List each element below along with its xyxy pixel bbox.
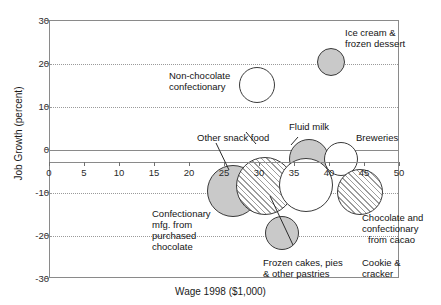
y-tick--20: [45, 235, 49, 236]
y-axis-title: Job Growth (percent): [13, 64, 24, 204]
label-frozen-cakes-line1: Frozen cakes, pies: [263, 257, 343, 268]
label-confectionary-line1: Confectionary: [152, 208, 211, 219]
x-tick-0: [49, 162, 50, 166]
x-axis-labels: 0 5 10 15 20 25 30 35 40 45 50: [0, 168, 441, 182]
bubble-non-chocolate-confectionary[interactable]: [239, 67, 275, 103]
x-tick-35: [294, 162, 295, 166]
gridline-20: [50, 64, 398, 65]
x-tick-label-30: 30: [247, 168, 271, 178]
label-cookie-cracker-line1: Cookie &: [362, 257, 401, 268]
y-tick-10: [45, 106, 49, 107]
x-axis-title: Wage 1998 ($1,000): [0, 286, 441, 297]
x-tick-40: [329, 162, 330, 166]
x-tick-label-20: 20: [177, 168, 201, 178]
label-non-chocolate-line2: confectionary: [169, 81, 226, 92]
label-non-chocolate-line1: Non-chocolate: [169, 70, 230, 81]
gridline-minus20: [50, 236, 398, 237]
label-confectionary-line4: chocolate: [152, 241, 193, 252]
x-tick-label-40: 40: [317, 168, 341, 178]
x-tick-10: [119, 162, 120, 166]
x-tick-25: [224, 162, 225, 166]
x-tick-5: [84, 162, 85, 166]
label-cookie-cracker-line2: cracker: [362, 268, 393, 279]
bubble-chart: 30 20 10 0 -10 -20 -30 0 5 10 15 20: [0, 0, 441, 305]
x-tick-50: [399, 162, 400, 166]
label-other-snack-food: Other snack food: [197, 132, 269, 143]
bubble-ice-cream-frozen-dessert[interactable]: [317, 48, 345, 76]
x-tick-label-15: 15: [142, 168, 166, 178]
x-tick-label-10: 10: [107, 168, 131, 178]
label-chocolate-cacao-line1: Chocolate and: [362, 212, 423, 223]
x-tick-label-50: 50: [387, 168, 411, 178]
x-tick-30: [259, 162, 260, 166]
x-tick-label-25: 25: [212, 168, 236, 178]
label-ice-cream-line1: Ice cream &: [345, 27, 396, 38]
label-ice-cream-line2: frozen dessert: [345, 38, 405, 49]
label-breweries: Breweries: [356, 132, 398, 143]
gridline-10: [50, 107, 398, 108]
label-chocolate-cacao-line3: from cacao: [368, 234, 415, 245]
label-fluid-milk: Fluid milk: [289, 121, 329, 132]
plot-area: [49, 20, 399, 278]
label-confectionary-line2: mfg. from: [152, 219, 192, 230]
y-tick-0: [45, 149, 49, 150]
label-frozen-cakes-line2: & other pastries: [263, 268, 330, 279]
y-tick--10: [45, 192, 49, 193]
x-tick-label-5: 5: [72, 168, 96, 178]
x-tick-label-35: 35: [282, 168, 306, 178]
x-tick-45: [364, 162, 365, 166]
label-confectionary-line3: purchased: [152, 230, 196, 241]
label-chocolate-cacao-line2: confectionary: [362, 223, 419, 234]
x-tick-label-45: 45: [352, 168, 376, 178]
y-tick--30: [45, 278, 49, 279]
y-tick-20: [45, 63, 49, 64]
x-tick-20: [189, 162, 190, 166]
x-tick-label-0: 0: [37, 168, 61, 178]
y-tick-marks: [45, 0, 51, 305]
bubble-frozen-cakes-pies-pastries[interactable]: [265, 216, 299, 250]
y-tick-30: [45, 20, 49, 21]
x-tick-15: [154, 162, 155, 166]
